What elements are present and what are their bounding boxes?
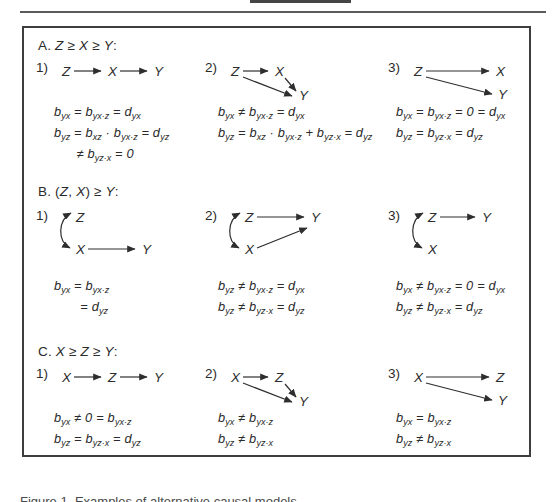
equations-c1: byx ≠ 0 = byx·z byz = byz·x = dyz [54,410,141,452]
equations-b1: byx = byx·z = dyz [54,278,109,320]
panel-a-header: A. Z ≥ X ≥ Y: [38,38,117,53]
item-number: 2) [205,208,217,223]
diagram-a2: ZXY [225,58,375,108]
node-label-z: Z [274,370,284,385]
node-label-y: Y [154,370,164,385]
node-label-y: Y [498,87,508,102]
diagram-c3: XZY [408,364,557,414]
page: A. Z ≥ X ≥ Y: 1) ZXY 2) ZXY 3) ZXY byx =… [0,0,557,502]
correlation-double-arrow [61,213,71,248]
equation-line: byz ≠ byz·x = dyz [218,299,304,320]
item-number: 3) [388,60,400,75]
equation-line: byx ≠ 0 = byx·z [54,410,141,431]
panel-c-header: C. X ≥ Z ≥ Y: [38,344,118,359]
node-label-x: X [274,64,285,79]
node-label-x: X [230,370,241,385]
equation-line: byx ≠ byx·z = 0 = dyx [396,278,505,299]
diagram-b2: ZYX [225,206,375,266]
equation-line: byx = byx·z = 0 = dyx [396,104,505,125]
equation-line: byz ≠ byz·x [396,431,451,452]
item-number: 1) [36,60,48,75]
node-label-z: Z [413,64,423,79]
node-label-y: Y [311,210,321,225]
equation-line: byz ≠ byz·x = dyz [396,299,505,320]
causal-arrow [285,384,296,397]
node-label-z: Z [495,370,505,385]
panel-c-item-1: 1) XZY [36,364,204,416]
panel-a-item-2: 2) ZXY [205,58,373,110]
equations-b2: byz ≠ byx·z = dyx byz ≠ byz·x = dyz [218,278,304,320]
equations-a2: byx ≠ byx·z = dyx byz = bxz · byx·z + by… [218,104,372,146]
panel-b-header: B. (Z, X) ≥ Y: [38,184,119,199]
equations-c2: byx ≠ byx·z byz ≠ byz·x [218,410,273,452]
equations-a3: byx = byx·z = 0 = dyx byz = byz·x = dyz [396,104,505,146]
panel-c-item-3: 3) XZY [388,364,556,416]
item-number: 1) [36,366,48,381]
item-number: 2) [205,60,217,75]
node-label-z: Z [75,210,85,225]
node-label-x: X [75,242,86,257]
equations-a1: byx = byx·z = dyx byz = bxz · byx·z = dy… [54,104,169,167]
node-label-x: X [61,370,72,385]
panel-b-item-1: 1) ZXY [36,206,204,268]
equations-c3: byx = byx·z byz ≠ byz·x [396,410,451,452]
node-label-x: X [413,370,424,385]
equation-line: byz = byz·x = dyz [54,431,141,452]
diagram-a1: ZXY [56,58,206,108]
item-number: 3) [388,366,400,381]
panel-b-item-2: 2) ZYX [205,206,373,268]
equation-line: byz ≠ byz·x [218,431,273,452]
equations-b3: byx ≠ byx·z = 0 = dyx byz ≠ byz·x = dyz [396,278,505,320]
panel-b-item-3: 3) ZYX [388,206,556,268]
node-label-y: Y [482,210,492,225]
causal-arrow [243,383,292,402]
equation-line: = dyz [54,299,109,320]
diagram-a3: ZXY [408,58,557,108]
diagram-b3: ZYX [408,206,557,266]
node-label-z: Z [244,210,254,225]
node-label-y: Y [142,242,152,257]
node-label-z: Z [61,64,71,79]
diagram-b1: ZXY [56,206,206,266]
node-label-z: Z [230,64,240,79]
horizontal-rule [20,11,546,13]
equation-line: byx = byx·z = dyx [54,104,169,125]
causal-arrow [426,77,492,94]
panel-c-item-2: 2) XZY [205,364,373,416]
diagram-c2: XZY [225,364,375,414]
equation-line: byz = byz·x = dyz [396,125,505,146]
item-number: 1) [36,208,48,223]
equation-line: ≠ byz·x = 0 [54,146,169,167]
node-label-z: Z [427,210,437,225]
figure-caption-cropped: Figure 1. Examples of alternative causal… [20,494,297,502]
node-label-x: X [244,242,255,257]
item-number: 2) [205,366,217,381]
node-label-x: X [495,64,506,79]
equation-line: byz = bxz · byx·z = dyz [54,125,169,146]
panel-a-item-3: 3) ZXY [388,58,556,110]
correlation-double-arrow [413,213,423,248]
node-label-y: Y [498,393,508,408]
correlation-double-arrow [230,213,240,248]
equation-line: byx = byx·z [54,278,109,299]
item-number: 3) [388,208,400,223]
cropped-content-above [250,0,351,3]
equation-line: byx = byx·z [396,410,451,431]
causal-arrow [426,383,492,400]
causal-arrow [257,228,307,248]
node-label-y: Y [299,88,309,103]
panel-a-item-1: 1) ZXY [36,58,204,110]
equation-line: byz = bxz · byx·z + byz·x = dyz [218,125,372,146]
figure-box: A. Z ≥ X ≥ Y: 1) ZXY 2) ZXY 3) ZXY byx =… [22,26,531,457]
node-label-x: X [107,64,118,79]
equation-line: byz ≠ byx·z = dyx [218,278,304,299]
node-label-y: Y [154,64,164,79]
equation-line: byx ≠ byx·z = dyx [218,104,372,125]
causal-arrow [243,77,292,96]
node-label-y: Y [299,394,309,409]
equation-line: byx ≠ byx·z [218,410,273,431]
diagram-c1: XZY [56,364,206,414]
causal-arrow [285,78,296,91]
node-label-x: X [427,242,438,257]
node-label-z: Z [107,370,117,385]
